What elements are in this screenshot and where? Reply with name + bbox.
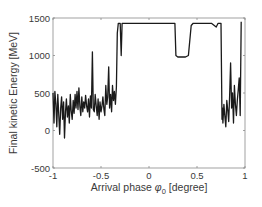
y-tick-label: 1500	[29, 13, 50, 24]
plot-area: -1-0.500.51 -500050010001500	[29, 13, 248, 182]
y-tick-label: 0	[45, 125, 50, 136]
x-tick-label: -1	[49, 170, 57, 181]
y-tick-label: -500	[31, 163, 50, 174]
y-tick-label: 500	[34, 88, 50, 99]
y-tick-label: 1000	[29, 50, 50, 61]
x-tick-label: 1	[242, 170, 247, 181]
x-tick-label: -0.5	[93, 170, 109, 181]
y-axis-label: Final kinetic Energy [MeV]	[7, 32, 19, 154]
x-tick-label: 0.5	[190, 170, 203, 181]
x-tick-label: 0	[146, 170, 151, 181]
chart-figure: -1-0.500.51 -500050010001500 Arrival pha…	[0, 0, 262, 207]
axes-frame	[53, 18, 245, 168]
